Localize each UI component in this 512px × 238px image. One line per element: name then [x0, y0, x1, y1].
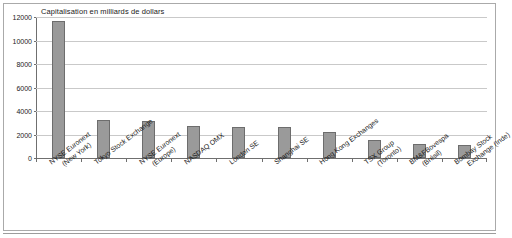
- bar-series: [36, 17, 487, 158]
- x-axis-labels: NYSE Euronext(New York)Tokyo Stock Excha…: [0, 160, 500, 238]
- y-axis-tick-label: 12000: [13, 14, 32, 21]
- y-axis-tick-label: 10000: [13, 37, 32, 44]
- y-axis-tick-label: 6000: [16, 84, 32, 91]
- y-axis-tick-label: 2000: [16, 131, 32, 138]
- bar: [52, 21, 65, 158]
- plot-area: [36, 17, 487, 158]
- y-axis-tick-label: 4000: [16, 108, 32, 115]
- y-axis-tick-label: 8000: [16, 61, 32, 68]
- y-axis-labels: 020004000600080001000012000: [0, 17, 34, 158]
- chart-title: Capitalisation en milliards de dollars: [41, 7, 164, 16]
